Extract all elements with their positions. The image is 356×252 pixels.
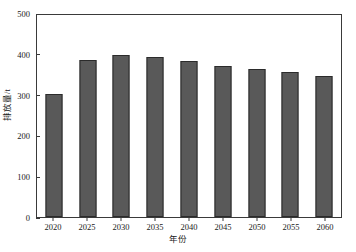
x-tick-label: 2025 [78, 222, 95, 232]
x-tick-label: 2060 [316, 222, 333, 232]
x-tick-label: 2050 [248, 222, 265, 232]
x-tick-label: 2020 [44, 222, 61, 232]
y-tick-mark [36, 95, 40, 96]
y-tick-label: 500 [2, 9, 30, 19]
x-tick-label: 2035 [146, 222, 163, 232]
x-tick-label: 2055 [282, 222, 299, 232]
x-tick-mark [120, 218, 121, 221]
x-tick-label: 2030 [112, 222, 129, 232]
x-tick-mark [154, 218, 155, 221]
x-tick-mark [290, 218, 291, 221]
x-axis-title: 年份 [0, 234, 356, 244]
y-tick-mark [36, 54, 40, 55]
x-tick-mark [222, 218, 223, 221]
y-tick-label: 100 [2, 172, 30, 182]
y-tick-label: 400 [2, 50, 30, 60]
x-tick-mark [52, 218, 53, 221]
y-tick-mark [36, 136, 40, 137]
y-tick-label: 0 [2, 213, 30, 223]
x-tick-mark [324, 218, 325, 221]
y-axis: 0100200300400500 [36, 14, 342, 218]
y-tick-mark [36, 14, 40, 15]
y-axis-title: 排放量/t [2, 65, 12, 145]
x-tick-mark [86, 218, 87, 221]
x-tick-mark [256, 218, 257, 221]
bar-chart: 0100200300400500 20202025203020352040204… [0, 0, 356, 252]
x-tick-label: 2040 [180, 222, 197, 232]
y-tick-mark [36, 177, 40, 178]
x-tick-label: 2045 [214, 222, 231, 232]
x-tick-mark [188, 218, 189, 221]
